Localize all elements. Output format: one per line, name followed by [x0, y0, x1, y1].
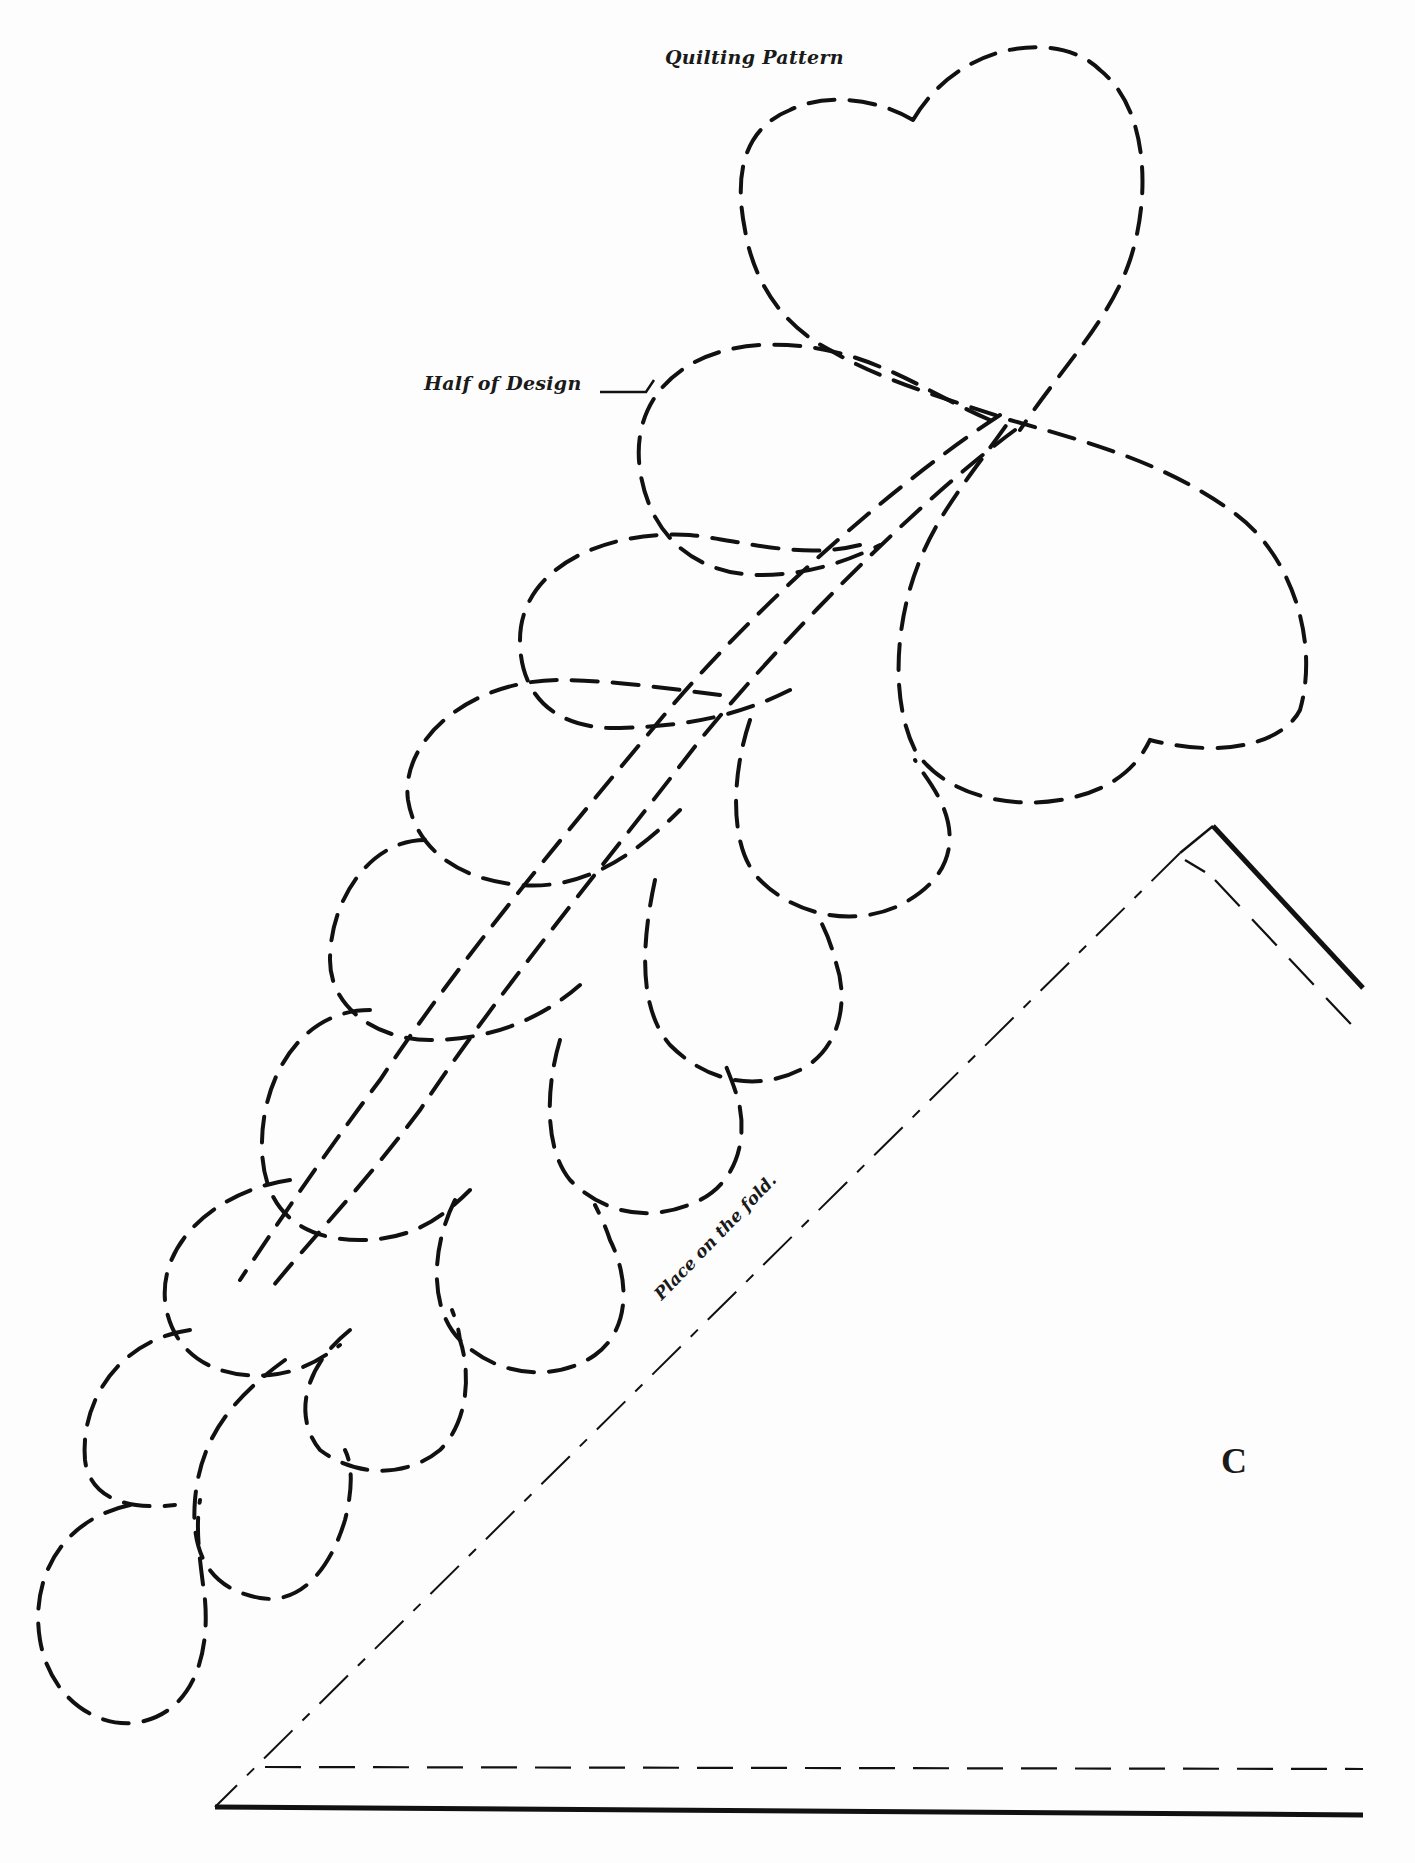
seam-line-upper-right — [1215, 880, 1363, 1037]
feather-left-3 — [407, 680, 720, 886]
feather-left-8 — [38, 1500, 206, 1723]
seam-corner-tick — [1185, 860, 1205, 872]
feather-left-1 — [639, 345, 990, 575]
feather-left-6 — [165, 1180, 340, 1376]
feather-right-5 — [305, 1310, 466, 1471]
right-heart — [899, 420, 1307, 803]
pattern-page: Quilting Pattern Half of Design Place on… — [0, 0, 1415, 1863]
pattern-drawing — [0, 0, 1415, 1863]
corner-notch — [1180, 826, 1213, 853]
feather-right-1 — [736, 720, 950, 916]
feather-left-5 — [262, 1010, 470, 1240]
top-heart — [741, 47, 1143, 430]
stem-upper — [240, 415, 1000, 1280]
fold-line — [215, 853, 1180, 1807]
label-leader-line — [600, 380, 654, 392]
cutting-line-bottom — [215, 1807, 1363, 1815]
cutting-line-upper-right — [1213, 826, 1363, 988]
feather-right-6 — [194, 1360, 350, 1599]
feather-left-2 — [520, 535, 860, 729]
feather-left-7 — [85, 1330, 190, 1506]
stem-lower — [270, 430, 1015, 1290]
feather-right-4 — [437, 1200, 624, 1372]
feather-right-3 — [550, 1040, 742, 1213]
seam-line-bottom — [265, 1767, 1363, 1769]
